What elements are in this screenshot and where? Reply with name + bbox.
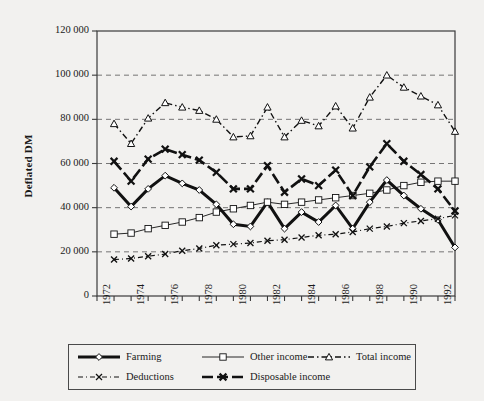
data-point: [179, 248, 185, 254]
data-point: [418, 179, 424, 185]
data-point: [332, 167, 339, 174]
x-tick-label: 1988: [374, 284, 385, 305]
legend-item-other-income[interactable]: Other income: [201, 350, 307, 364]
data-point: [315, 182, 322, 189]
data-point: [367, 190, 373, 196]
data-point: [332, 102, 339, 108]
y-tick-label: 60 000: [27, 157, 89, 168]
data-point: [230, 206, 236, 212]
legend-item-farming[interactable]: Farming: [77, 350, 162, 364]
x-tick-label: 1972: [101, 284, 112, 305]
x-tick-label: 1976: [169, 284, 180, 305]
data-point: [110, 120, 117, 126]
data-point: [435, 178, 441, 184]
x-tick-label: 1986: [340, 284, 351, 305]
data-point: [264, 104, 271, 110]
y-tick-label: 0: [27, 289, 89, 300]
x-tick-label: 1992: [442, 284, 453, 305]
data-point: [299, 234, 305, 240]
x-tick-label: 1984: [306, 284, 317, 305]
data-point: [111, 231, 117, 237]
y-tick-label: 120 000: [27, 24, 89, 35]
data-point: [434, 101, 441, 107]
data-point: [298, 199, 304, 205]
legend-item-deductions[interactable]: Deductions: [77, 370, 174, 384]
data-point: [349, 125, 356, 131]
y-tick-label: 80 000: [27, 112, 89, 123]
other-income-key: [201, 350, 245, 364]
x-tick-label: 1978: [203, 284, 214, 305]
x-tick-label: 1990: [408, 284, 419, 305]
x-tick-label: 1980: [237, 284, 248, 305]
data-point: [384, 187, 390, 193]
data-point: [418, 218, 424, 224]
series-total-income: [110, 72, 458, 147]
data-point: [162, 222, 168, 228]
legend-label: Deductions: [126, 372, 174, 383]
y-tick-label: 40 000: [27, 201, 89, 212]
legend-item-disposable-income[interactable]: Disposable income: [201, 370, 330, 384]
data-point: [264, 199, 270, 205]
data-point: [145, 156, 152, 163]
data-point: [281, 201, 287, 207]
legend-label: Disposable income: [250, 372, 330, 383]
data-point: [435, 185, 442, 192]
data-point: [145, 115, 152, 121]
chart-figure: Deflated DM 120 000100 00080 00060 00040…: [0, 0, 484, 401]
series-deductions: [111, 212, 458, 262]
data-point: [417, 93, 424, 99]
legend-label: Farming: [126, 352, 162, 363]
data-point: [111, 158, 118, 165]
data-point: [213, 242, 219, 248]
data-point: [333, 231, 339, 237]
data-point: [401, 182, 407, 188]
total-income-key: [307, 350, 351, 364]
data-point: [247, 202, 253, 208]
data-point: [332, 195, 338, 201]
legend-label: Other income: [250, 352, 307, 363]
data-point: [452, 178, 458, 184]
data-point: [315, 197, 321, 203]
data-point: [179, 219, 185, 225]
data-point: [230, 133, 237, 139]
chart-legend: FarmingOther incomeTotal incomeDeduction…: [68, 344, 416, 390]
y-tick-label: 100 000: [27, 68, 89, 79]
data-point: [366, 163, 373, 170]
data-point: [213, 169, 220, 176]
data-point: [196, 214, 202, 220]
data-point: [247, 132, 254, 138]
disposable-income-key: [201, 370, 245, 384]
y-tick-label: 20 000: [27, 245, 89, 256]
legend-item-total-income[interactable]: Total income: [307, 350, 411, 364]
legend-label: Total income: [356, 352, 411, 363]
data-point: [128, 178, 135, 185]
deductions-key: [77, 370, 121, 384]
data-point: [383, 140, 390, 147]
data-point: [418, 171, 425, 178]
data-point: [298, 117, 305, 123]
data-point: [145, 225, 151, 231]
x-tick-label: 1974: [135, 284, 146, 305]
farming-key: [77, 350, 121, 364]
x-tick-label: 1982: [271, 284, 282, 305]
data-point: [213, 209, 219, 215]
data-point: [128, 230, 134, 236]
data-point: [162, 99, 169, 105]
